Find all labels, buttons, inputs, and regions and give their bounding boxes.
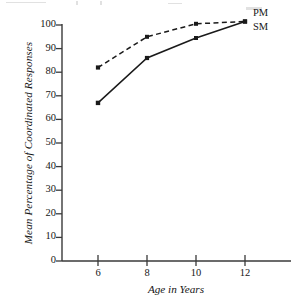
legend-label-pm: PM [253,8,268,19]
scan-artifact [76,1,78,5]
legend-label-sm: SM [253,22,268,33]
series-markers-pm [96,19,247,69]
series-markers-sm [96,19,247,105]
x-tick-label-8: 8 [136,268,158,279]
x-tick-label-10: 10 [185,268,207,279]
line-chart: 100 90 80 70 60 50 40 30 20 10 0 6 8 10 … [0,0,300,302]
series-line-sm [98,22,245,103]
y-axis-ticks [56,25,62,261]
y-axis-title: Mean Percentage of Coordinated Responses [22,18,34,268]
x-tick-label-12: 12 [234,268,256,279]
scan-artifact [6,2,46,3]
scan-artifact [100,1,102,5]
x-axis-title: Age in Years [62,283,290,295]
scan-artifact [168,3,182,4]
x-tick-label-6: 6 [87,268,109,279]
